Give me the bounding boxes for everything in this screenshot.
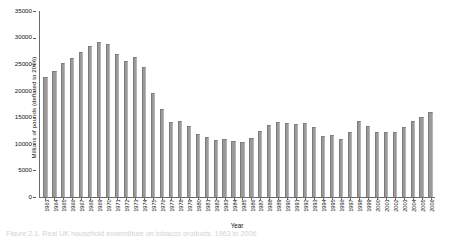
x-axis-ticklabels: 1963196419651966196719681969197019711972…: [40, 200, 436, 222]
y-tick-label: 5000: [18, 167, 32, 173]
bar: [196, 134, 200, 197]
x-tick-label: 1971: [116, 199, 122, 211]
x-tick-label: 2006: [430, 199, 436, 211]
x-tick-label: 2001: [385, 199, 391, 211]
y-axis-ticks: 05000100001500020000250003000035000: [0, 0, 36, 236]
bar: [348, 132, 352, 197]
x-tick-label: 1983: [224, 199, 230, 211]
bar: [231, 141, 235, 197]
bar: [393, 132, 397, 197]
y-tick-label: 20000: [15, 88, 32, 94]
y-tick-mark: [33, 64, 36, 65]
y-tick-mark: [33, 11, 36, 12]
bar: [249, 138, 253, 197]
x-tick-label: 2004: [412, 199, 418, 211]
bar: [205, 137, 209, 197]
bar: [276, 122, 280, 197]
x-tick-label: 1970: [107, 199, 113, 211]
bar: [151, 93, 155, 197]
bar: [106, 44, 110, 197]
bar: [321, 136, 325, 197]
bar: [88, 46, 92, 197]
x-tick-label: 1991: [296, 199, 302, 211]
x-tick-label: 1977: [170, 199, 176, 211]
x-tick-label: 1976: [161, 199, 167, 211]
y-tick-label: 35000: [15, 8, 32, 14]
figure-caption: Figure 2.1. Real UK household expenditur…: [6, 231, 257, 236]
y-tick-label: 10000: [15, 141, 32, 147]
x-tick-label: 2005: [421, 199, 427, 211]
bar: [160, 109, 164, 197]
x-tick-label: 1997: [349, 199, 355, 211]
x-tick-label: 1982: [215, 199, 221, 211]
x-tick-label: 1988: [269, 199, 275, 211]
bar: [375, 132, 379, 197]
bar: [339, 139, 343, 197]
bar: [214, 140, 218, 197]
x-axis-title: Year: [39, 222, 435, 229]
y-tick-label: 25000: [15, 61, 32, 67]
x-tick-label: 1998: [358, 199, 364, 211]
x-tick-label: 1975: [152, 199, 158, 211]
bar: [419, 117, 423, 197]
bar: [115, 54, 119, 197]
bar: [61, 63, 65, 197]
x-tick-label: 1979: [188, 199, 194, 211]
x-tick-label: 1973: [134, 199, 140, 211]
x-tick-label: 2000: [376, 199, 382, 211]
bar: [366, 126, 370, 197]
bar: [70, 58, 74, 197]
x-tick-label: 1972: [125, 199, 131, 211]
x-tick-label: 1992: [304, 199, 310, 211]
x-tick-label: 1969: [99, 199, 105, 211]
y-tick-label: 0: [29, 194, 32, 200]
plot-area: [39, 11, 435, 197]
x-tick-label: 1996: [340, 199, 346, 211]
bar: [330, 135, 334, 197]
bar: [142, 67, 146, 197]
x-tick-label: 1964: [54, 199, 60, 211]
y-tick-label: 30000: [15, 34, 32, 40]
x-tick-label: 1989: [278, 199, 284, 211]
bar: [267, 125, 271, 197]
bar: [43, 77, 47, 197]
y-tick-mark: [33, 197, 36, 198]
y-tick-mark: [33, 38, 36, 39]
y-tick-mark: [33, 117, 36, 118]
x-tick-label: 1981: [206, 199, 212, 211]
x-tick-label: 1995: [331, 199, 337, 211]
x-tick-label: 1985: [242, 199, 248, 211]
y-tick-mark: [33, 91, 36, 92]
bar-series: [40, 11, 435, 197]
bar: [285, 123, 289, 197]
y-tick-mark: [33, 144, 36, 145]
figure-caption-strip: Figure 2.1. Real UK household expenditur…: [0, 231, 454, 236]
x-tick-label: 1968: [90, 199, 96, 211]
y-tick-mark: [33, 170, 36, 171]
bar: [133, 57, 137, 197]
x-tick-label: 1980: [197, 199, 203, 211]
x-tick-label: 1994: [322, 199, 328, 211]
x-tick-label: 1999: [367, 199, 373, 211]
bar: [52, 71, 56, 197]
x-tick-label: 1993: [313, 199, 319, 211]
chart-figure: Millions of pounds (deflated to 2006) 05…: [0, 0, 454, 236]
x-tick-label: 2003: [403, 199, 409, 211]
bar: [178, 121, 182, 197]
bar: [411, 121, 415, 197]
x-tick-label: 1984: [233, 199, 239, 211]
bar: [294, 124, 298, 197]
bar: [303, 123, 307, 197]
bar: [384, 132, 388, 197]
x-tick-label: 1965: [63, 199, 69, 211]
bar: [97, 42, 101, 197]
bar: [169, 122, 173, 197]
y-tick-label: 15000: [15, 114, 32, 120]
bar: [402, 127, 406, 197]
bar: [240, 142, 244, 197]
x-tick-label: 1986: [251, 199, 257, 211]
x-tick-label: 1974: [143, 199, 149, 211]
x-tick-label: 2002: [394, 199, 400, 211]
x-tick-label: 1990: [287, 199, 293, 211]
bar: [222, 139, 226, 197]
